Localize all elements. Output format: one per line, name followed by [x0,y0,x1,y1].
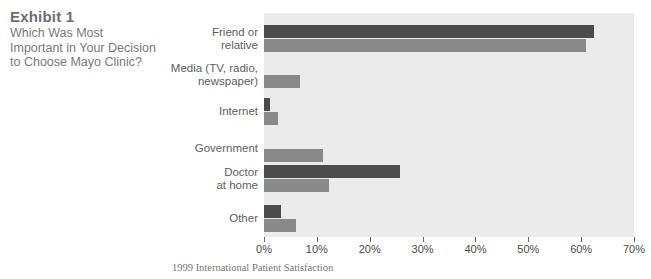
category-axis-labels: Friend orrelativeMedia (TV, radio,newspa… [150,13,258,237]
category-label-line: at home [150,179,258,192]
axis-tick [317,237,318,242]
axis-tick [264,237,265,242]
axis-tick [475,237,476,242]
bar-middle-east [264,112,278,125]
category-label-line: Government [150,142,258,155]
bar-latin-america [264,98,270,111]
category-label: Friend orrelative [150,26,258,52]
bar-latin-america [264,25,594,38]
plot-area: Latin America Middle East [264,13,634,237]
axis-tick-label: 40% [464,243,486,255]
category-label-line: Internet [150,105,258,118]
exhibit-chart-figure: Exhibit 1 Which Was Most Important in Yo… [0,0,651,279]
category-label-line: Friend or [150,26,258,39]
category-label: Media (TV, radio,newspaper) [150,62,258,88]
chart-footnote: 1999 International Patient Satisfaction [172,262,333,273]
bar-middle-east [264,179,329,192]
axis-tick [581,237,582,242]
bars-layer [264,13,634,237]
bar-middle-east [264,75,300,88]
axis-tick-label: 30% [412,243,434,255]
category-label: Government [150,142,258,155]
axis-tick-label: 10% [306,243,328,255]
axis-tick [370,237,371,242]
axis-tick-label: 20% [359,243,381,255]
bar-middle-east [264,149,323,162]
bar-middle-east [264,219,296,232]
axis-tick [423,237,424,242]
axis-tick [528,237,529,242]
category-label: Other [150,212,258,225]
category-label: Doctorat home [150,166,258,192]
category-label-line: Other [150,212,258,225]
category-label-line: Doctor [150,166,258,179]
axis-tick-label: 70% [623,243,645,255]
axis-tick-label: 50% [517,243,539,255]
category-label-line: relative [150,39,258,52]
bar-middle-east [264,39,586,52]
category-label-line: Media (TV, radio, [150,62,258,75]
bar-latin-america [264,165,400,178]
value-axis: 0%10%20%30%40%50%60%70% [264,237,634,259]
axis-tick-label: 60% [570,243,592,255]
axis-tick [634,237,635,242]
bar-latin-america [264,205,281,218]
category-label-line: newspaper) [150,75,258,88]
axis-tick-label: 0% [256,243,272,255]
category-label: Internet [150,105,258,118]
